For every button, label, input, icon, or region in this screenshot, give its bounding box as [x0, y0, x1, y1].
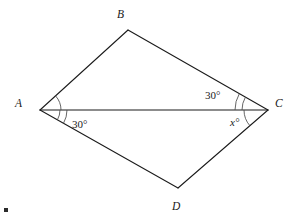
angle-arc-BAC — [56, 96, 61, 110]
side-AB — [40, 30, 128, 110]
vertex-label-c: C — [275, 97, 283, 109]
vertex-label-b: B — [117, 8, 124, 20]
vertex-label-d: D — [171, 200, 181, 212]
vertex-label-a: A — [14, 97, 23, 109]
side-DA — [40, 110, 178, 188]
side-BC — [128, 30, 268, 110]
angle-arc-CAD — [57, 110, 67, 123]
geometry-figure: A B C D 30° 30° x° — [0, 0, 291, 219]
angle-label-acd: x° — [229, 116, 240, 128]
angle-arc-ACD — [244, 110, 250, 126]
side-CD — [178, 110, 268, 188]
angle-label-bca: 30° — [205, 89, 220, 101]
page-corner-mark — [4, 208, 8, 212]
figure-canvas: A B C D 30° 30° x° — [0, 0, 291, 219]
angle-label-cad: 30° — [72, 118, 87, 130]
